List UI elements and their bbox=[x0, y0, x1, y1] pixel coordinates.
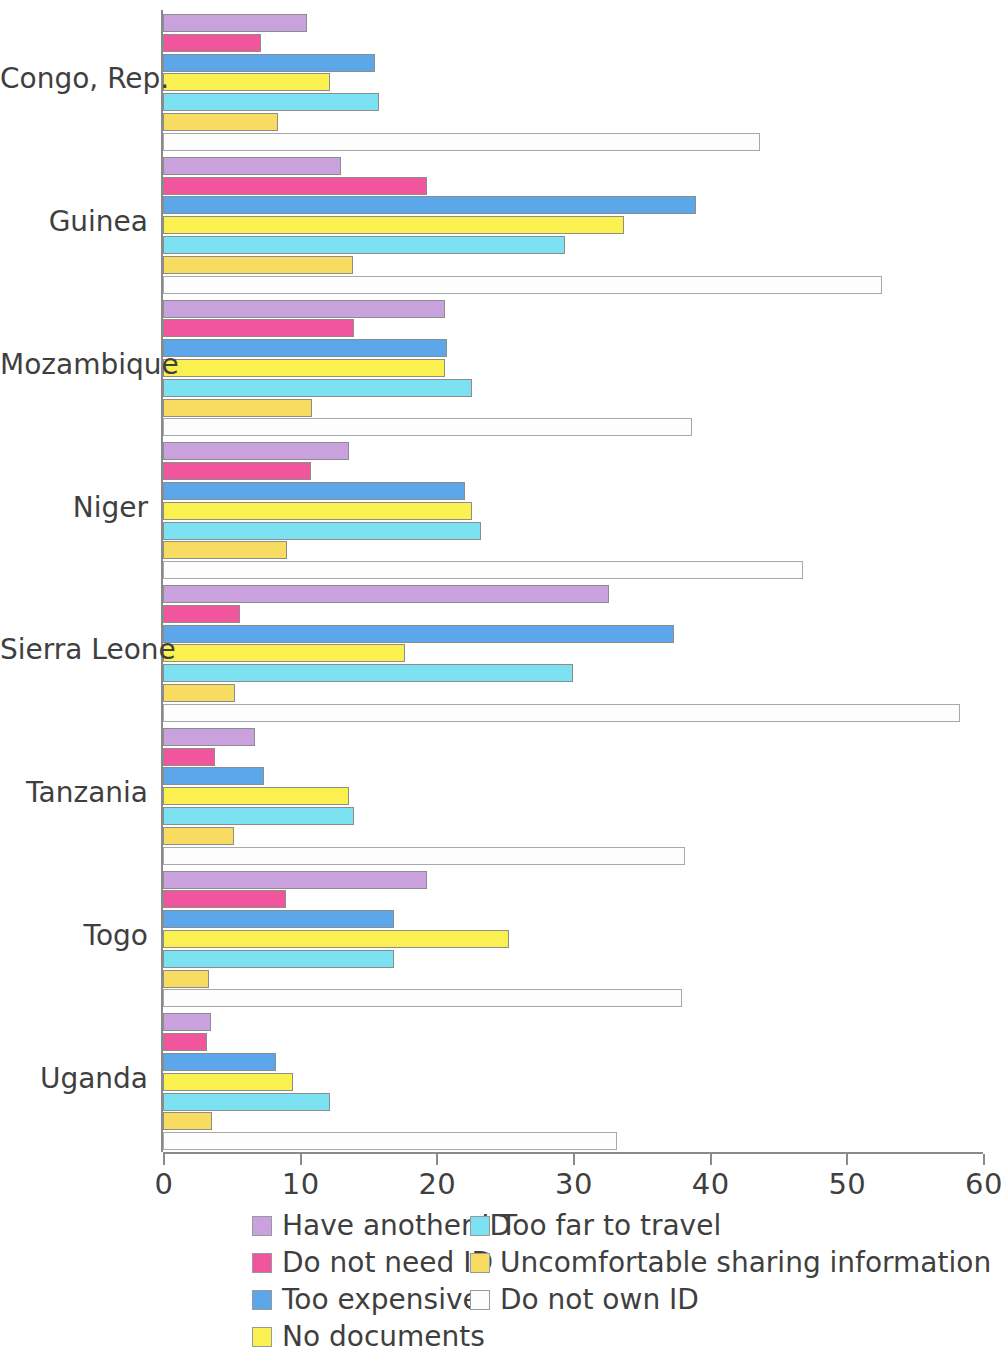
bar bbox=[163, 807, 354, 825]
bar bbox=[163, 970, 209, 988]
bar bbox=[163, 339, 447, 357]
x-axis-tick bbox=[300, 1154, 302, 1165]
bar bbox=[163, 177, 427, 195]
bar bbox=[163, 748, 215, 766]
bar bbox=[163, 890, 286, 908]
bar bbox=[163, 1112, 212, 1130]
legend-label: No documents bbox=[282, 1323, 485, 1348]
bar bbox=[163, 787, 349, 805]
bar bbox=[163, 767, 264, 785]
legend-label: Too expensive bbox=[282, 1286, 480, 1314]
category-label: Sierra Leone bbox=[0, 633, 148, 666]
legend-item[interactable]: Uncomfortable sharing information bbox=[470, 1244, 991, 1281]
bar bbox=[163, 561, 803, 579]
bar bbox=[163, 73, 330, 91]
bar bbox=[163, 1132, 617, 1150]
category-label: Uganda bbox=[0, 1062, 148, 1095]
bar bbox=[163, 1033, 207, 1051]
bar bbox=[163, 113, 278, 131]
bar bbox=[163, 1053, 276, 1071]
bar bbox=[163, 1093, 330, 1111]
bar bbox=[163, 216, 624, 234]
x-axis-tick bbox=[163, 1154, 165, 1165]
legend-label: Do not need ID bbox=[282, 1249, 493, 1277]
x-axis-tick bbox=[983, 1154, 985, 1165]
bar bbox=[163, 522, 481, 540]
bar bbox=[163, 605, 240, 623]
legend-swatch-icon bbox=[470, 1290, 490, 1310]
bar bbox=[163, 1073, 293, 1091]
bar bbox=[163, 442, 349, 460]
legend-label: Uncomfortable sharing information bbox=[500, 1249, 991, 1277]
legend-swatch-icon bbox=[252, 1327, 272, 1347]
bar bbox=[163, 34, 261, 52]
bar bbox=[163, 502, 472, 520]
bar bbox=[163, 300, 445, 318]
bar bbox=[163, 379, 472, 397]
bar bbox=[163, 684, 235, 702]
bar bbox=[163, 644, 405, 662]
x-axis-tick-label: 0 bbox=[155, 1167, 174, 1201]
x-axis-tick-label: 10 bbox=[282, 1167, 320, 1201]
bar bbox=[163, 256, 353, 274]
bar bbox=[163, 1013, 211, 1031]
bar bbox=[163, 728, 255, 746]
bar bbox=[163, 236, 565, 254]
category-label: Togo bbox=[0, 919, 148, 952]
legend-swatch-icon bbox=[252, 1290, 272, 1310]
legend-label: Too far to travel bbox=[500, 1212, 721, 1240]
grouped-bar-chart: Congo, Rep.GuineaMozambiqueNigerSierra L… bbox=[0, 0, 1008, 1348]
x-axis-tick bbox=[710, 1154, 712, 1165]
x-axis-tick-label: 30 bbox=[555, 1167, 593, 1201]
bar bbox=[163, 319, 354, 337]
category-label: Mozambique bbox=[0, 348, 148, 381]
legend-item[interactable]: No documents bbox=[252, 1318, 511, 1348]
bar bbox=[163, 399, 312, 417]
bar bbox=[163, 482, 465, 500]
x-axis-tick-label: 50 bbox=[828, 1167, 866, 1201]
bar bbox=[163, 359, 445, 377]
bar bbox=[163, 462, 311, 480]
bar bbox=[163, 541, 287, 559]
bar bbox=[163, 910, 394, 928]
bar bbox=[163, 276, 882, 294]
bar bbox=[163, 871, 427, 889]
legend-column-2: Too far to travelUncomfortable sharing i… bbox=[470, 1207, 991, 1318]
bar bbox=[163, 847, 685, 865]
legend-label: Do not own ID bbox=[500, 1286, 699, 1314]
bar bbox=[163, 133, 760, 151]
x-axis-tick-label: 40 bbox=[692, 1167, 730, 1201]
category-label: Congo, Rep. bbox=[0, 62, 148, 95]
legend-swatch-icon bbox=[470, 1216, 490, 1236]
category-label: Guinea bbox=[0, 205, 148, 238]
x-axis-tick bbox=[846, 1154, 848, 1165]
bar bbox=[163, 704, 960, 722]
legend-swatch-icon bbox=[252, 1216, 272, 1236]
bar bbox=[163, 418, 692, 436]
bar bbox=[163, 950, 394, 968]
bar bbox=[163, 989, 682, 1007]
x-axis-tick-label: 20 bbox=[418, 1167, 456, 1201]
bar bbox=[163, 93, 379, 111]
legend-item[interactable]: Too far to travel bbox=[470, 1207, 991, 1244]
bar bbox=[163, 827, 234, 845]
category-label: Tanzania bbox=[0, 776, 148, 809]
x-axis-tick bbox=[573, 1154, 575, 1165]
x-axis-tick bbox=[436, 1154, 438, 1165]
bar bbox=[163, 930, 509, 948]
bar bbox=[163, 196, 696, 214]
legend-item[interactable]: Do not own ID bbox=[470, 1281, 991, 1318]
legend-swatch-icon bbox=[470, 1253, 490, 1273]
bar bbox=[163, 157, 341, 175]
bar bbox=[163, 625, 674, 643]
bar bbox=[163, 54, 375, 72]
category-label: Niger bbox=[0, 491, 148, 524]
bar bbox=[163, 664, 573, 682]
legend-swatch-icon bbox=[252, 1253, 272, 1273]
bar bbox=[163, 14, 307, 32]
bar bbox=[163, 585, 609, 603]
x-axis-tick-label: 60 bbox=[965, 1167, 1003, 1201]
